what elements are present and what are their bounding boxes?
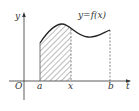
shaded-area [40,24,71,81]
tick-label-b: b [108,81,114,91]
t-axis-label: t [126,81,130,91]
integral-diagram: y y=f(x) O a x b t [0,0,139,111]
tick-label-a: a [37,81,42,91]
diagram-canvas: y y=f(x) O a x b t [0,0,139,111]
tick-label-x: x [68,81,73,91]
origin-label: O [15,81,23,91]
y-axis-arrow-icon [22,12,26,17]
y-axis-label: y [14,11,21,21]
curve-label: y=f(x) [77,10,107,20]
